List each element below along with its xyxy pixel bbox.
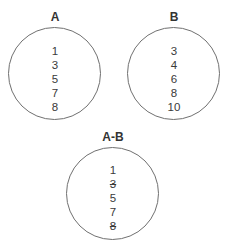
- member: 1: [35, 44, 75, 58]
- set-a-members: 1 3 5 7 8: [35, 44, 75, 114]
- member: 7: [35, 86, 75, 100]
- set-b-members: 3 4 6 8 10: [154, 44, 194, 114]
- set-a-minus-b-members: 1 3 5 7 8: [93, 163, 133, 233]
- set-a-label: A: [25, 10, 85, 24]
- member: 1: [93, 163, 133, 177]
- set-a-minus-b-label: A-B: [83, 130, 143, 144]
- member-struck: 8: [93, 219, 133, 233]
- member: 3: [154, 44, 194, 58]
- member: 4: [154, 58, 194, 72]
- member: 5: [93, 191, 133, 205]
- set-b-label: B: [144, 10, 204, 24]
- member: 5: [35, 72, 75, 86]
- member: 6: [154, 72, 194, 86]
- member: 7: [93, 205, 133, 219]
- member-struck: 3: [93, 177, 133, 191]
- member: 8: [154, 86, 194, 100]
- member: 3: [35, 58, 75, 72]
- member: 8: [35, 100, 75, 114]
- member: 10: [154, 100, 194, 114]
